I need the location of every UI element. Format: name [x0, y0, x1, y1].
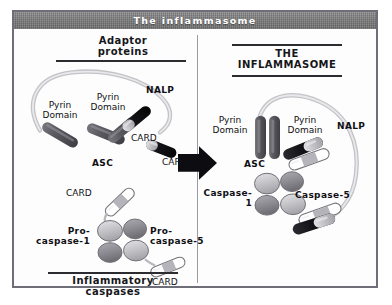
figure-title-bar: The inflammasome — [14, 12, 376, 29]
right-pyrin-domain-2-label: Pyrin Domain — [279, 116, 331, 136]
left-pyrin-domain-1-label: Pyrin Domain — [34, 101, 86, 121]
inflammatory-caspases-overline — [48, 272, 178, 274]
inflammasome-heading-underline — [232, 75, 342, 77]
left-card-nalp-label: CARD — [162, 158, 188, 168]
adaptor-proteins-underline — [56, 60, 186, 62]
left-nalp-label: NALP — [146, 86, 174, 96]
right-asc-label: ASC — [244, 160, 265, 170]
figure-frame: The inflammasome Adaptor proteins — [12, 10, 378, 288]
procaspase-1-label: Pro- caspase-1 — [16, 227, 90, 247]
left-card-asc-label: CARD — [131, 134, 157, 144]
left-asc-label: ASC — [92, 159, 113, 169]
inflammasome-figure: The inflammasome Adaptor proteins — [0, 0, 392, 305]
caspase-5-label: Caspase-5 — [295, 191, 350, 201]
panel-inflammasome: THE INFLAMMASOME — [198, 29, 376, 286]
left-pyrin-domain-2-label: Pyrin Domain — [82, 93, 134, 113]
inflammasome-heading-overline — [232, 44, 342, 46]
right-nalp-label: NALP — [337, 122, 365, 132]
caspase-1-label: Caspase-1 — [198, 189, 252, 209]
right-pyrin-domain-1-label: Pyrin Domain — [204, 116, 256, 136]
inflammasome-heading: THE INFLAMMASOME — [222, 48, 352, 70]
figure-title: The inflammasome — [133, 16, 256, 26]
panels-container: Adaptor proteins — [14, 29, 376, 286]
panel-adaptor-proteins: Adaptor proteins — [14, 29, 197, 286]
inflammatory-caspases-heading: Inflammatory caspases — [48, 275, 178, 297]
adaptor-proteins-heading: Adaptor proteins — [70, 35, 176, 57]
card-procaspase-1-label: CARD — [66, 189, 92, 199]
